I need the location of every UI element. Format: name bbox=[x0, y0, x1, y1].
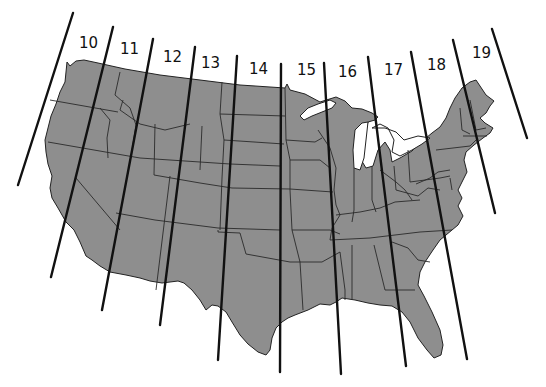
us-landmass bbox=[45, 60, 494, 358]
lake-michigan bbox=[353, 122, 368, 170]
zone-label-14: 14 bbox=[249, 60, 268, 78]
zone-label-17: 17 bbox=[384, 61, 403, 79]
utm-zone-map: 10111213141516171819 bbox=[0, 0, 546, 387]
zone-label-19: 19 bbox=[472, 44, 491, 62]
zone-label-18: 18 bbox=[427, 56, 446, 74]
zone-boundary-line bbox=[280, 64, 281, 372]
zone-label-11: 11 bbox=[120, 40, 139, 58]
zone-label-10: 10 bbox=[79, 34, 98, 52]
zone-label-12: 12 bbox=[163, 48, 182, 66]
zone-label-15: 15 bbox=[297, 61, 316, 79]
zone-label-16: 16 bbox=[338, 63, 357, 81]
us-map-svg: 10111213141516171819 bbox=[0, 0, 546, 387]
zone-boundary-line bbox=[492, 29, 527, 138]
zone-label-13: 13 bbox=[201, 54, 220, 72]
